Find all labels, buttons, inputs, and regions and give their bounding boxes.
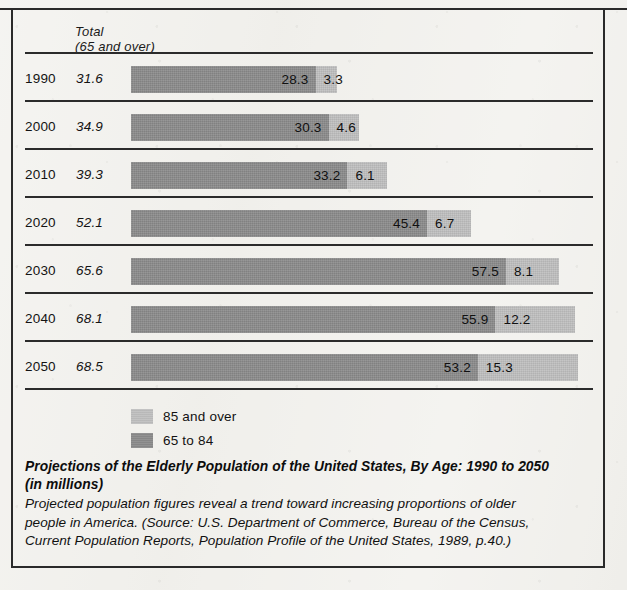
- row-rule: [25, 196, 593, 198]
- caption-body-line3: Current Population Reports, Population P…: [25, 532, 587, 551]
- bar-value-label: 8.1: [514, 258, 533, 285]
- caption-title: Projections of the Elderly Population of…: [25, 458, 587, 493]
- bar-segment-85-and-over: 6.7: [427, 210, 471, 237]
- caption-body: Projected population figures reveal a tr…: [25, 495, 587, 551]
- bar-value-label: 15.3: [486, 354, 513, 381]
- bar-value-label: 53.2: [444, 354, 471, 381]
- chart-row: 199031.628.33.3: [0, 60, 627, 100]
- bar-value-label: 33.2: [313, 162, 340, 189]
- bar-value-label: 45.4: [393, 210, 420, 237]
- bar-segment-85-and-over: 15.3: [478, 354, 578, 381]
- bar-segment-85-and-over: 8.1: [506, 258, 559, 285]
- bar-segment-85-and-over: 6.1: [347, 162, 387, 189]
- caption-title-line1: Projections of the Elderly Population of…: [25, 458, 587, 476]
- row-rule: [25, 148, 593, 150]
- bar-value-label: 12.2: [503, 306, 530, 333]
- row-rule: [25, 388, 593, 390]
- bar-value-label: 3.3: [324, 66, 343, 93]
- row-total-value: 52.1: [76, 215, 103, 230]
- column-header: Total (65 and over): [75, 24, 155, 54]
- legend-label: 85 and over: [163, 408, 237, 425]
- bar-value-label: 6.1: [355, 162, 374, 189]
- bar-value-label: 57.5: [472, 258, 499, 285]
- figure-caption: Projections of the Elderly Population of…: [25, 458, 587, 551]
- bar-value-label: 6.7: [435, 210, 454, 237]
- bar-segment-65-to-84: 53.2: [131, 354, 478, 381]
- row-total-value: 39.3: [76, 167, 103, 182]
- chart-row: 203065.657.58.1: [0, 252, 627, 292]
- row-year-label: 1990: [25, 71, 56, 86]
- row-rule: [25, 52, 593, 54]
- caption-title-line2: (in millions): [25, 476, 587, 494]
- bar-segment-85-and-over: 3.3: [316, 66, 338, 93]
- column-header-line1: Total: [75, 24, 155, 39]
- bar-value-label: 4.6: [337, 114, 356, 141]
- bar-segment-65-to-84: 55.9: [131, 306, 495, 333]
- row-rule: [25, 100, 593, 102]
- bar-segment-65-to-84: 30.3: [131, 114, 329, 141]
- legend-label: 65 to 84: [163, 432, 213, 449]
- bar-segment-65-to-84: 57.5: [131, 258, 506, 285]
- row-total-value: 34.9: [76, 119, 103, 134]
- row-rule: [25, 340, 593, 342]
- chart-row: 205068.553.215.3: [0, 348, 627, 388]
- bar-segment-65-to-84: 28.3: [131, 66, 316, 93]
- row-total-value: 68.5: [76, 359, 103, 374]
- caption-body-line1: Projected population figures reveal a tr…: [25, 495, 587, 514]
- bar-value-label: 55.9: [461, 306, 488, 333]
- row-total-value: 31.6: [76, 71, 103, 86]
- chart-row: 202052.145.46.7: [0, 204, 627, 244]
- bar-value-label: 30.3: [294, 114, 321, 141]
- bar-value-label: 28.3: [281, 66, 308, 93]
- row-year-label: 2040: [25, 311, 56, 326]
- legend-swatch-light: [131, 409, 153, 424]
- row-total-value: 65.6: [76, 263, 103, 278]
- legend-swatch-dark: [131, 433, 153, 448]
- row-year-label: 2000: [25, 119, 56, 134]
- bar-segment-65-to-84: 33.2: [131, 162, 347, 189]
- row-year-label: 2050: [25, 359, 56, 374]
- bar-segment-65-to-84: 45.4: [131, 210, 427, 237]
- row-year-label: 2020: [25, 215, 56, 230]
- row-rule: [25, 244, 593, 246]
- row-year-label: 2030: [25, 263, 56, 278]
- bar-segment-85-and-over: 4.6: [329, 114, 359, 141]
- row-year-label: 2010: [25, 167, 56, 182]
- caption-body-line2: people in America. (Source: U.S. Departm…: [25, 514, 587, 533]
- chart-row: 200034.930.34.6: [0, 108, 627, 148]
- row-rule: [25, 292, 593, 294]
- chart-row: 201039.333.26.1: [0, 156, 627, 196]
- row-total-value: 68.1: [76, 311, 103, 326]
- figure-page: Total (65 and over) 199031.628.33.320003…: [0, 0, 627, 590]
- chart-row: 204068.155.912.2: [0, 300, 627, 340]
- bar-segment-85-and-over: 12.2: [495, 306, 575, 333]
